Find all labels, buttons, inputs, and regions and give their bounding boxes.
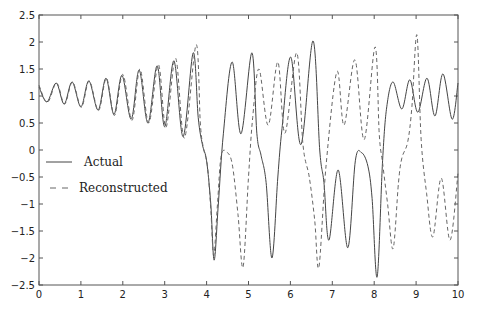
- x-tick-label: 3: [162, 289, 168, 300]
- y-tick-label: −1: [20, 199, 35, 210]
- legend-label-actual: Actual: [83, 155, 123, 169]
- y-tick-label: 2.5: [19, 10, 35, 21]
- y-tick-label: −2: [20, 253, 35, 264]
- y-tick-label: 1: [29, 91, 35, 102]
- x-tick-label: 5: [245, 289, 251, 300]
- legend-label-reconstructed: Reconstructed: [79, 181, 168, 195]
- x-tick-label: 6: [287, 289, 293, 300]
- y-tick-label: 2: [29, 37, 35, 48]
- y-tick-label: 0: [29, 145, 35, 156]
- x-tick-label: 7: [329, 289, 335, 300]
- chart-background: [0, 0, 478, 316]
- x-tick-label: 9: [413, 289, 419, 300]
- line-chart: 012345678910 2.521.510.50−0.5−1−1.5−2−2.…: [0, 0, 478, 316]
- y-tick-label: 1.5: [19, 64, 35, 75]
- y-tick-label: −1.5: [11, 226, 35, 237]
- x-tick-label: 10: [452, 289, 465, 300]
- x-tick-label: 0: [36, 289, 42, 300]
- x-tick-label: 2: [120, 289, 126, 300]
- x-tick-label: 1: [78, 289, 84, 300]
- y-tick-label: 0.5: [19, 118, 35, 129]
- x-tick-label: 8: [371, 289, 377, 300]
- y-tick-label: −0.5: [11, 172, 35, 183]
- x-tick-label: 4: [203, 289, 209, 300]
- y-tick-label: −2.5: [11, 280, 35, 291]
